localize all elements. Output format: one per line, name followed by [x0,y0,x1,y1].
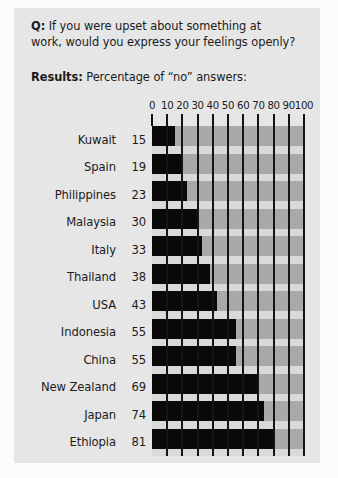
question-text-line-1: If you were upset about something at [49,19,261,33]
bar [152,236,202,256]
category-label: Kuwait [78,133,116,147]
question-line-2: work, would you express your feelings op… [31,35,307,51]
x-axis-tick-label: 40 [207,100,219,111]
results-block: Results: Percentage of “no” answers: [31,70,247,84]
category-label-row: Kuwait15 [14,126,146,154]
data-value-label: 55 [122,325,146,339]
plot-area [152,126,304,456]
category-label-row: China55 [14,346,146,374]
bar [152,291,217,311]
category-label: Thailand [67,270,116,284]
data-value-label: 43 [122,298,146,312]
category-label-row: USA43 [14,291,146,319]
gridline [288,126,290,456]
gridline [242,126,244,456]
gridline [227,126,229,456]
gridline [197,126,199,456]
x-axis-tick-mark [257,114,259,126]
x-axis-tick-label: 90 [283,100,295,111]
category-label: New Zealand [41,380,116,394]
x-axis-tick-label: 30 [191,100,203,111]
x-axis-tick-label: 80 [267,100,279,111]
bar [152,319,236,339]
category-label-row: Malaysia30 [14,209,146,237]
category-label-row: Ethiopia81 [14,429,146,457]
category-label: Indonesia [61,325,116,339]
x-axis-tick-mark [242,114,244,126]
x-axis-tick-mark [273,114,275,126]
x-axis-tick-mark [288,114,290,126]
category-label: Malaysia [66,215,116,229]
category-label-row: Spain19 [14,154,146,182]
figure-card: Q: If you were upset about something at … [14,8,320,463]
category-label: Japan [84,408,116,422]
results-label: Results: [31,70,83,84]
data-value-label: 81 [122,435,146,449]
gridline [166,126,168,456]
x-axis-tick-mark [212,114,214,126]
x-axis-tick-label: 10 [161,100,173,111]
category-label-row: Japan74 [14,401,146,429]
data-value-label: 19 [122,160,146,174]
data-value-label: 23 [122,188,146,202]
category-label-row: Italy33 [14,236,146,264]
gridline [212,126,214,456]
gridline [257,126,259,456]
category-label: Italy [91,243,116,257]
x-axis-tick-mark [166,114,168,126]
category-label-row: Indonesia55 [14,319,146,347]
question-text-line-2: work, would you express your feelings op… [31,35,295,49]
x-axis-tick-mark [303,114,305,126]
category-label-row: Philippines23 [14,181,146,209]
gridline [181,126,183,456]
category-label-column: Kuwait15Spain19Philippines23Malaysia30It… [14,126,146,456]
bar [152,126,175,146]
category-label: Spain [84,160,116,174]
category-label-row: Thailand38 [14,264,146,292]
x-axis-tick-label: 0 [149,100,155,111]
x-axis-tick-mark [151,114,153,126]
category-label: USA [92,298,116,312]
bar [152,209,198,229]
question-block: Q: If you were upset about something at … [31,19,307,50]
category-label: Philippines [55,188,116,202]
x-axis-tick-marks [152,114,310,126]
category-label-row: New Zealand69 [14,374,146,402]
data-value-label: 55 [122,353,146,367]
x-axis-tick-label: 20 [176,100,188,111]
data-value-label: 69 [122,380,146,394]
results-text: Percentage of “no” answers: [86,70,246,84]
category-label: China [83,353,116,367]
x-axis-tick-label: 60 [237,100,249,111]
data-value-label: 74 [122,408,146,422]
x-axis-tick-label: 70 [252,100,264,111]
x-axis-tick-mark [197,114,199,126]
page-root: Q: If you were upset about something at … [0,0,338,478]
x-axis-tick-label: 50 [222,100,234,111]
data-value-label: 15 [122,133,146,147]
data-value-label: 38 [122,270,146,284]
x-axis-tick-mark [227,114,229,126]
gridline [273,126,275,456]
question-label: Q: [31,19,45,33]
data-value-label: 33 [122,243,146,257]
data-value-label: 30 [122,215,146,229]
x-axis-tick-labels: 0102030405060708090100 [152,100,310,114]
question-line-1: Q: If you were upset about something at [31,19,307,35]
x-axis-tick-mark [181,114,183,126]
x-axis-tick-label: 100 [295,100,314,111]
gridline [303,126,305,456]
bar [152,401,264,421]
category-label: Ethiopia [70,435,116,449]
bar [152,346,236,366]
